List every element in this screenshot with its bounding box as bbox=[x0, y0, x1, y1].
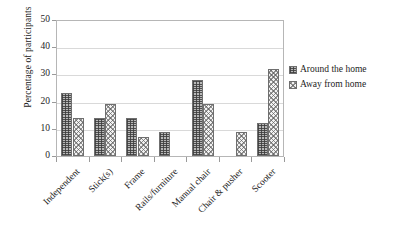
legend-item-label: Around the home bbox=[300, 63, 367, 76]
y-axis-tick-label: 50 bbox=[28, 14, 50, 24]
y-axis-tick-label: 40 bbox=[28, 41, 50, 51]
bar bbox=[138, 137, 149, 156]
bar-group bbox=[251, 20, 284, 156]
x-axis-labels: IndependentStick(s)FrameRails/furnitureM… bbox=[0, 157, 395, 233]
bar-group bbox=[56, 20, 89, 156]
bar-group bbox=[89, 20, 122, 156]
chart-legend: Around the homeAway from home bbox=[289, 63, 367, 93]
bar bbox=[236, 132, 247, 156]
y-axis-tick-label: 30 bbox=[28, 68, 50, 78]
bar bbox=[94, 118, 105, 156]
bar-chart-figure: Percentage of participants 01020304050 I… bbox=[0, 0, 395, 233]
bar-group bbox=[186, 20, 219, 156]
legend-swatch-icon bbox=[289, 66, 297, 74]
x-axis-tick-label: Independent bbox=[0, 166, 82, 233]
bar bbox=[61, 93, 72, 156]
bar-group bbox=[219, 20, 252, 156]
bar bbox=[268, 69, 279, 156]
y-axis-tick-label: 10 bbox=[28, 123, 50, 133]
bar bbox=[105, 104, 116, 156]
bar bbox=[257, 123, 268, 156]
legend-swatch-icon bbox=[289, 81, 297, 89]
bars-layer bbox=[56, 20, 284, 156]
y-axis-tick-label: 20 bbox=[28, 96, 50, 106]
legend-item: Away from home bbox=[289, 78, 367, 91]
bar bbox=[192, 80, 203, 156]
bar bbox=[73, 118, 84, 156]
bar bbox=[159, 132, 170, 156]
bar-group bbox=[154, 20, 187, 156]
legend-item: Around the home bbox=[289, 63, 367, 76]
bar-group bbox=[121, 20, 154, 156]
bar bbox=[203, 104, 214, 156]
legend-item-label: Away from home bbox=[300, 78, 366, 91]
bar bbox=[126, 118, 137, 156]
